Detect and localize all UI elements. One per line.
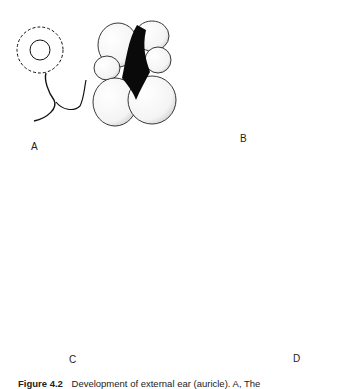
panel-label-c: C xyxy=(69,354,76,365)
figure-caption: Figure 4.2 Development of external ear (… xyxy=(18,378,260,389)
panel-label-b: B xyxy=(240,133,247,144)
figure-number: Figure 4.2 xyxy=(18,378,63,389)
figure-caption-text: Development of external ear (auricle). A… xyxy=(72,378,261,389)
panel-label-d: D xyxy=(293,353,300,364)
panel-a-illustration xyxy=(17,21,176,126)
panel-label-a: A xyxy=(31,141,38,152)
